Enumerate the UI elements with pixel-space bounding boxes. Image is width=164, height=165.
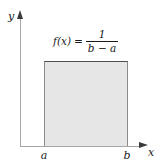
x-tick-label-a: a (38, 150, 50, 161)
x-axis-label: x (148, 147, 154, 158)
formula-equals-sign: = (74, 35, 83, 47)
shaded-pdf-region (44, 61, 128, 146)
y-axis-label: y (8, 11, 14, 22)
formula-left-hand-side: f(x) (53, 35, 71, 47)
function-formula: f(x) = 1 b − a (53, 29, 118, 53)
x-tick-label-b: b (121, 150, 133, 161)
y-axis-arrow-icon (17, 10, 23, 19)
uniform-distribution-figure: y x a b f(x) = 1 b − a (0, 0, 164, 165)
fraction-denominator: b − a (86, 42, 118, 54)
x-axis-line (20, 146, 142, 147)
formula-fraction: 1 b − a (86, 29, 118, 53)
fraction-numerator: 1 (96, 29, 109, 41)
y-axis-line (20, 18, 21, 146)
x-axis-arrow-icon (139, 142, 148, 148)
